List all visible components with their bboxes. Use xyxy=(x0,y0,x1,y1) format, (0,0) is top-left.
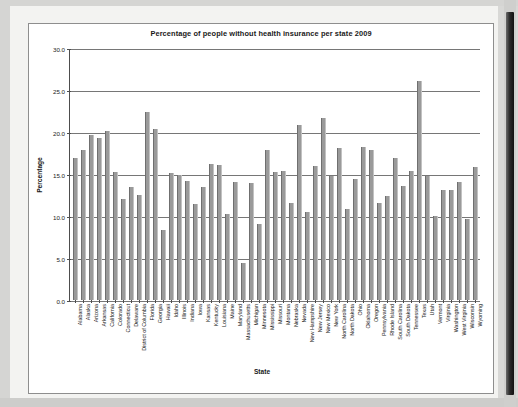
x-tick-mark xyxy=(107,300,108,303)
x-tick-mark xyxy=(131,300,132,303)
x-tick-label: Wyoming xyxy=(477,282,483,304)
x-tick-label-text: California xyxy=(109,304,115,327)
bar[interactable] xyxy=(201,187,206,300)
x-tick-label-text: Idaho xyxy=(173,304,179,318)
bar[interactable] xyxy=(369,150,374,300)
x-tick-mark xyxy=(163,300,164,303)
x-tick-label-text: Mississippi xyxy=(269,304,275,330)
x-tick-label-text: Utah xyxy=(429,304,435,315)
x-tick-label-text: Kansas xyxy=(205,304,211,322)
bar[interactable] xyxy=(81,150,86,300)
x-tick-mark xyxy=(83,300,84,303)
window-left-edge xyxy=(0,0,10,407)
x-tick-mark xyxy=(99,300,100,303)
x-tick-label-text: Arizona xyxy=(93,304,99,322)
x-tick-mark xyxy=(323,300,324,303)
x-tick-label-text: Ohio xyxy=(357,304,363,315)
y-tick-label: 5.0 xyxy=(56,256,65,263)
x-tick-mark xyxy=(91,300,92,303)
bar[interactable] xyxy=(417,81,422,300)
bar[interactable] xyxy=(169,173,174,300)
x-tick-label-text: Arkansas xyxy=(101,304,107,326)
x-tick-mark xyxy=(187,300,188,303)
x-tick-label-text: Washington xyxy=(453,304,459,332)
x-tick-label-text: South Dakota xyxy=(405,304,411,337)
bar[interactable] xyxy=(177,175,182,300)
x-tick-label-text: New Hampshire xyxy=(309,304,315,342)
x-tick-mark xyxy=(411,300,412,303)
x-tick-label-text: Wyoming xyxy=(477,304,483,326)
x-tick-label-text: Georgia xyxy=(157,304,163,323)
x-tick-label-text: North Dakota xyxy=(349,304,355,336)
x-tick-label-text: Connecticut xyxy=(125,304,131,332)
x-tick-mark xyxy=(339,300,340,303)
x-tick-mark xyxy=(243,300,244,303)
x-tick-label-text: Maine xyxy=(229,304,235,319)
x-tick-mark xyxy=(363,300,364,303)
x-tick-label-text: Kentucky xyxy=(213,304,219,326)
bar[interactable] xyxy=(361,147,366,300)
bar[interactable] xyxy=(441,190,446,300)
bar[interactable] xyxy=(217,165,222,300)
bar[interactable] xyxy=(281,171,286,300)
x-tick-mark xyxy=(371,300,372,303)
chart-title: Percentage of people without health insu… xyxy=(29,29,493,38)
x-tick-mark xyxy=(347,300,348,303)
scrollbar-thumb[interactable] xyxy=(506,12,514,395)
bar[interactable] xyxy=(97,138,102,300)
x-tick-mark xyxy=(211,300,212,303)
x-tick-mark xyxy=(123,300,124,303)
bar[interactable] xyxy=(473,167,478,300)
x-tick-label-text: Illinois xyxy=(181,304,187,319)
x-tick-label-text: Indiana xyxy=(189,304,195,322)
chart-figure: Percentage of people without health insu… xyxy=(28,23,494,394)
x-tick-mark xyxy=(251,300,252,303)
x-tick-mark xyxy=(203,300,204,303)
x-tick-mark xyxy=(291,300,292,303)
bar[interactable] xyxy=(153,129,158,300)
x-tick-mark xyxy=(427,300,428,303)
x-tick-label-text: Oregon xyxy=(373,304,379,322)
x-tick-mark xyxy=(299,300,300,303)
chart-window: Percentage of people without health insu… xyxy=(0,0,518,407)
x-tick-mark xyxy=(179,300,180,303)
vertical-scrollbar[interactable] xyxy=(504,0,516,407)
y-tick-label: 0.0 xyxy=(56,298,65,305)
x-tick-label-text: Alaska xyxy=(85,304,91,320)
bar[interactable] xyxy=(113,172,118,300)
x-tick-label-text: Hawaii xyxy=(165,304,171,320)
x-tick-label-text: Colorado xyxy=(117,304,123,326)
bar-series: AlabamaAlaskaArizonaArkansasCaliforniaCo… xyxy=(71,48,479,300)
bar[interactable] xyxy=(425,176,430,300)
bar[interactable] xyxy=(225,214,230,300)
y-tick-label: 30.0 xyxy=(53,46,65,53)
x-tick-label-text: Texas xyxy=(421,304,427,318)
x-tick-label-text: Alabama xyxy=(77,304,83,325)
x-tick-label-text: New Jersey xyxy=(317,304,323,332)
bar[interactable] xyxy=(105,131,110,300)
x-tick-label-text: Delaware xyxy=(133,304,139,327)
x-tick-mark xyxy=(155,300,156,303)
bar[interactable] xyxy=(73,158,78,300)
x-tick-label-text: Rhode Island xyxy=(389,304,395,336)
window-bottom-edge xyxy=(0,398,518,407)
bar[interactable] xyxy=(321,118,326,300)
bar[interactable] xyxy=(89,135,94,300)
bar[interactable] xyxy=(353,179,358,300)
x-tick-label-text: Virginia xyxy=(445,304,451,322)
x-tick-mark xyxy=(435,300,436,303)
y-tick-mark xyxy=(67,301,71,302)
x-tick-mark xyxy=(139,300,140,303)
bar[interactable] xyxy=(193,204,198,300)
bar[interactable] xyxy=(273,172,278,300)
bar[interactable] xyxy=(297,125,302,300)
x-tick-label-text: Tennessee xyxy=(413,304,419,330)
x-tick-label-text: Nebraska xyxy=(293,304,299,327)
bar[interactable] xyxy=(145,112,150,300)
x-tick-mark xyxy=(275,300,276,303)
x-tick-label-text: West Virginia xyxy=(461,304,467,336)
x-tick-label-text: Michigan xyxy=(253,304,259,326)
x-tick-label-text: Iowa xyxy=(197,304,203,315)
bar[interactable] xyxy=(185,181,190,300)
bar[interactable] xyxy=(209,164,214,300)
